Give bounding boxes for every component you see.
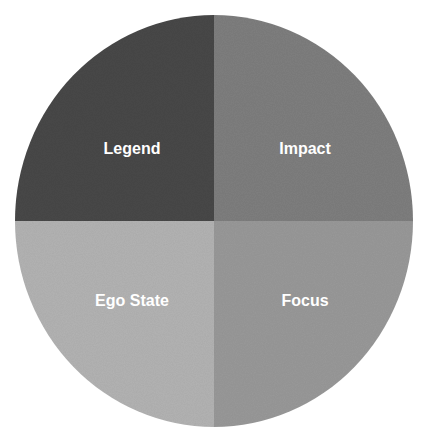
label-focus: Focus: [281, 292, 328, 309]
quadrant-ego-state: [0, 221, 214, 441]
label-impact: Impact: [279, 140, 331, 157]
label-ego-state: Ego State: [95, 292, 169, 309]
quadrant-legend: [0, 0, 214, 221]
quadrant-impact: [214, 0, 422, 221]
quadrant-diagram: Legend Impact Ego State Focus: [0, 0, 422, 441]
label-legend: Legend: [104, 140, 161, 157]
quadrant-focus: [214, 221, 422, 441]
